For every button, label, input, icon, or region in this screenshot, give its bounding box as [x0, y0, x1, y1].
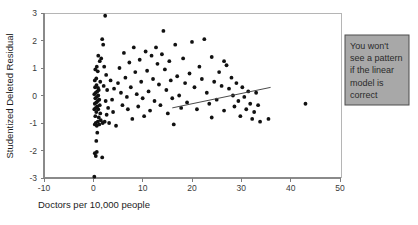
data-point [161, 29, 165, 33]
data-point [230, 76, 234, 80]
y-tick-label: 1 [32, 63, 37, 73]
data-point [121, 103, 125, 107]
data-point [103, 14, 107, 18]
data-point [148, 109, 152, 113]
data-point [124, 76, 128, 80]
data-point [190, 40, 194, 44]
data-point [118, 66, 122, 70]
data-point [304, 102, 308, 106]
data-point [99, 56, 103, 60]
data-point [238, 114, 242, 118]
scatter-plot-figure: -1001020304050-3-2-10123 You won'tsee a … [0, 0, 418, 225]
data-point [114, 124, 118, 128]
data-point [248, 102, 252, 106]
data-point [96, 107, 100, 111]
data-point [172, 122, 176, 126]
data-point [252, 110, 256, 114]
data-point [167, 59, 171, 63]
plot-canvas: -1001020304050-3-2-10123 You won'tsee a … [0, 0, 418, 225]
data-point [210, 55, 214, 59]
data-point [98, 80, 102, 84]
data-point [166, 111, 170, 115]
data-point [177, 94, 181, 98]
data-point [97, 122, 101, 126]
data-point [95, 150, 99, 154]
y-tick-label: -1 [29, 118, 37, 128]
data-point [142, 114, 146, 118]
data-point [175, 74, 179, 78]
data-point [225, 63, 229, 67]
data-point [181, 56, 185, 60]
data-point [159, 103, 163, 107]
data-point [135, 92, 139, 96]
x-tick-label: 30 [237, 183, 247, 193]
x-tick-label: 10 [138, 183, 148, 193]
data-point [139, 80, 143, 84]
data-point [153, 99, 157, 103]
data-point [202, 37, 206, 41]
data-point [105, 113, 109, 117]
data-point [129, 85, 133, 89]
y-tick-label: 3 [32, 8, 37, 18]
data-point [170, 96, 174, 100]
data-point [169, 78, 173, 82]
data-point [250, 117, 254, 121]
data-point [95, 131, 99, 135]
data-point [94, 154, 98, 158]
data-point [244, 107, 248, 111]
data-point [141, 96, 145, 100]
data-point [96, 86, 100, 90]
callout-pointer-line [172, 87, 270, 108]
data-point [97, 116, 101, 120]
data-point [195, 107, 199, 111]
data-point [198, 65, 202, 69]
data-point [254, 91, 258, 95]
data-point [147, 89, 151, 93]
data-point [103, 120, 107, 124]
data-point [235, 81, 239, 85]
data-point [102, 65, 106, 69]
data-point [116, 81, 120, 85]
data-point [96, 54, 100, 58]
data-point [242, 95, 246, 99]
data-point [122, 51, 126, 55]
callout-text-line: see a pattern [350, 53, 403, 63]
data-point [106, 106, 110, 110]
data-point [96, 69, 100, 73]
callout-text-line: correct [350, 90, 378, 100]
y-tick-label: -3 [29, 173, 37, 183]
data-point [111, 110, 115, 114]
data-point [119, 91, 123, 95]
data-point [227, 87, 231, 91]
data-points [92, 14, 307, 179]
data-point [193, 85, 197, 89]
data-point [222, 59, 226, 63]
data-point [188, 72, 192, 76]
data-point [112, 87, 116, 91]
data-point [183, 81, 187, 85]
data-point [217, 70, 221, 74]
data-point [207, 102, 211, 106]
data-point [105, 88, 109, 92]
pointer-line [172, 87, 270, 108]
data-point [154, 45, 158, 49]
data-point [160, 52, 164, 56]
data-point [236, 99, 240, 103]
data-point [200, 77, 204, 81]
y-axis-title: Studentized Deleted Residual [4, 33, 15, 158]
data-point [256, 103, 260, 107]
callout-text-line: model is [350, 78, 384, 88]
data-point [107, 121, 111, 125]
data-point [220, 84, 224, 88]
data-point [163, 67, 167, 71]
x-tick-label: 50 [335, 183, 345, 193]
data-point [98, 103, 102, 107]
data-point [267, 117, 271, 121]
data-point [173, 43, 177, 47]
data-point [212, 80, 216, 84]
data-point [100, 155, 104, 159]
data-point [145, 69, 149, 73]
y-tick-label: 0 [32, 91, 37, 101]
callout-text-line: You won't [350, 41, 389, 51]
data-point [95, 65, 99, 69]
